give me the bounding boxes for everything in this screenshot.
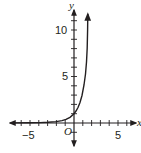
y-axis-label: y bbox=[68, 0, 74, 11]
coordinate-graph: y x O −5 5 5 10 bbox=[0, 0, 141, 153]
y-tick-label-5: 5 bbox=[62, 70, 68, 82]
y-tick-label-10: 10 bbox=[55, 24, 67, 36]
x-axis-label: x bbox=[136, 116, 141, 128]
origin-label: O bbox=[64, 125, 72, 137]
x-tick-label-5: 5 bbox=[115, 129, 121, 141]
x-tick-label-neg5: −5 bbox=[22, 129, 35, 141]
